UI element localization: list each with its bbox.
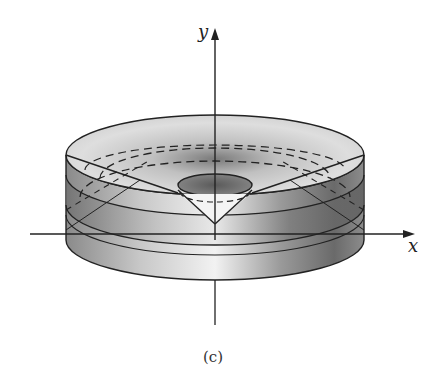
figure-caption: (c) [203,348,223,366]
solid-of-revolution-figure: y x (c) [0,0,443,390]
y-axis-arrow-icon [211,28,219,40]
x-axis-label: x [408,235,418,256]
y-axis-label: y [197,21,209,42]
